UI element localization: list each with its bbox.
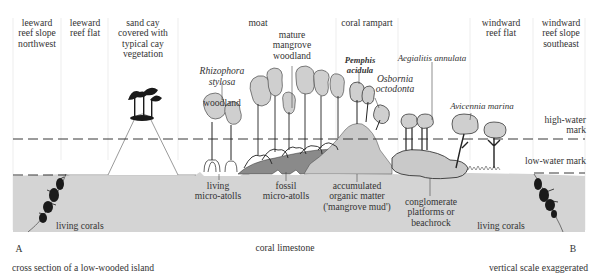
label-organic-matter: accumulated organic matter ('mangrove mu… [318, 181, 396, 212]
marker-b: B [568, 244, 578, 254]
caption-scale-note: vertical scale exaggerated [430, 263, 588, 273]
label-mature-mangrove: mature mangrove woodland [262, 30, 322, 61]
zone-sand-cay: sand cay covered with typical cay vegeta… [110, 18, 176, 60]
label-conglomerate: conglomerate platforms or beachrock [398, 197, 464, 228]
marker-a: A [14, 244, 24, 254]
zone-leeward-reef-flat: leeward reef flat [61, 18, 109, 39]
zone-moat: moat [238, 18, 278, 28]
label-living-microatolls: living micro-atolls [188, 181, 248, 202]
rhizophora-woodland: woodland [203, 97, 241, 108]
zone-leeward-reef-slope: leeward reef slope northwest [13, 18, 61, 49]
label-osbornia: Osbornia octodonta [370, 74, 420, 95]
label-pemphis: Pemphis acidula [340, 55, 380, 76]
zone-windward-reef-flat: windward reef flat [470, 18, 532, 39]
aegialitis-trees-icon [401, 114, 433, 150]
label-living-corals-left: living corals [56, 221, 116, 231]
label-high-water-mark: high-water mark [520, 115, 586, 136]
rhizophora-species: Rhizophora stylosa [192, 66, 252, 87]
caption-title: cross section of a low-wooded island [12, 263, 212, 273]
palm-trees-icon [128, 88, 162, 121]
label-aegialitis: Aegialitis annulata [392, 53, 472, 63]
sand-cay [108, 114, 178, 175]
mangrove-mud-mound [304, 124, 392, 174]
zone-windward-reef-slope: windward reef slope southeast [533, 18, 589, 49]
label-low-water-mark: low-water mark [498, 156, 586, 166]
label-avicennia: Avicennia marina [446, 101, 518, 111]
label-coral-limestone: coral limestone [240, 243, 330, 253]
label-rhizophora: Rhizophora stylosa woodland [192, 56, 252, 108]
label-living-corals-right: living corals [470, 221, 532, 231]
osbornia-tree-icon [374, 105, 390, 130]
zone-coral-rampart: coral rampart [334, 18, 400, 28]
label-fossil-microatolls: fossil micro-atolls [256, 181, 316, 202]
mature-mangrove-trees-icon [250, 66, 344, 114]
